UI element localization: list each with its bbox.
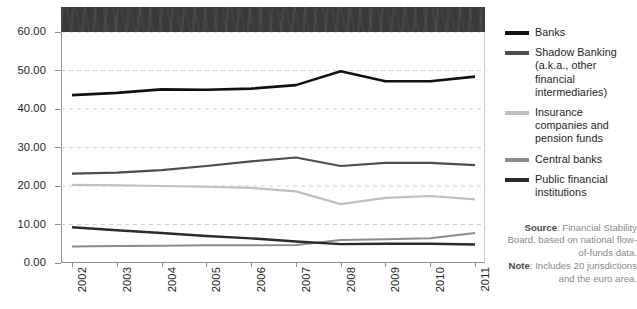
x-axis-label: 2005 (211, 267, 222, 292)
legend-item[interactable]: Banks (505, 26, 637, 39)
y-axis: 0.0010.0020.0030.0040.0050.0060.00 (0, 32, 55, 263)
x-axis-tick (475, 263, 476, 267)
series-line (72, 185, 475, 204)
note-label: Note (508, 260, 529, 271)
source-label: Source (524, 222, 557, 233)
x-axis-tick (206, 263, 207, 267)
x-axis-label: 2008 (346, 267, 357, 292)
series-line (72, 71, 475, 95)
y-axis-label: 0.00 (24, 257, 46, 268)
legend-item-label: Central banks (535, 153, 602, 166)
x-axis: 2002200320042005200620072008200920102011 (61, 263, 485, 309)
x-axis-label: 2006 (256, 267, 267, 292)
legend-item[interactable]: Shadow Banking (a.k.a., other financial … (505, 46, 637, 99)
x-axis-label: 2002 (77, 267, 88, 292)
x-axis-label: 2009 (390, 267, 401, 292)
legend-swatch-icon (505, 158, 529, 162)
chart-lines (61, 32, 485, 263)
series-line (72, 158, 475, 174)
redacted-title-band (61, 7, 485, 32)
chart-page: 0.0010.0020.0030.0040.0050.0060.00 20022… (0, 0, 637, 309)
x-axis-tick (296, 263, 297, 267)
x-axis-tick (117, 263, 118, 267)
note-text: : Includes 20 jurisdictions and the euro… (530, 260, 637, 283)
legend-item-label: Public financial institutions (535, 173, 637, 199)
x-axis-label: 2010 (435, 267, 446, 292)
x-axis-tick (162, 263, 163, 267)
legend-item-label: Insurance companies and pension funds (535, 106, 637, 146)
legend-item[interactable]: Public financial institutions (505, 173, 637, 199)
chart-legend: BanksShadow Banking (a.k.a., other finan… (505, 26, 637, 206)
y-axis-label: 50.00 (18, 65, 47, 76)
y-axis-label: 10.00 (18, 219, 47, 230)
y-axis-label: 60.00 (18, 26, 47, 37)
y-axis-label: 40.00 (18, 103, 47, 114)
x-axis-tick (430, 263, 431, 267)
legend-swatch-icon (505, 111, 529, 115)
x-axis-label: 2007 (301, 267, 312, 292)
series-line (72, 227, 475, 244)
chart-credits: Source: Financial Stability Board, based… (497, 222, 637, 286)
x-axis-tick (385, 263, 386, 267)
x-axis-label: 2004 (167, 267, 178, 292)
plot-area (61, 32, 485, 263)
x-axis-tick (72, 263, 73, 267)
legend-swatch-icon (505, 51, 529, 55)
x-axis-label: 2011 (480, 267, 491, 291)
y-axis-label: 20.00 (18, 180, 47, 191)
note-line: Note: Includes 20 jurisdictions and the … (497, 260, 637, 285)
legend-item[interactable]: Central banks (505, 153, 637, 166)
source-line: Source: Financial Stability Board, based… (497, 222, 637, 259)
x-axis-tick (341, 263, 342, 267)
x-axis-label: 2003 (122, 267, 133, 292)
legend-swatch-icon (505, 178, 529, 182)
legend-item-label: Shadow Banking (a.k.a., other financial … (535, 46, 637, 99)
legend-swatch-icon (505, 31, 529, 35)
legend-item-label: Banks (535, 26, 565, 39)
y-axis-label: 30.00 (18, 142, 47, 153)
x-axis-tick (251, 263, 252, 267)
legend-item[interactable]: Insurance companies and pension funds (505, 106, 637, 146)
